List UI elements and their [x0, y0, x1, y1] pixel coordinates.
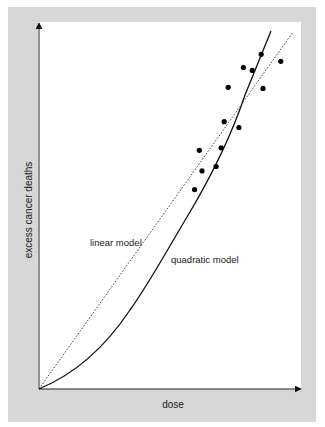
quadratic-model-label: quadratic model	[171, 254, 239, 265]
data-point	[192, 187, 197, 192]
data-point	[214, 164, 219, 169]
data-point	[236, 125, 241, 130]
y-axis-label: excess cancer deaths	[23, 162, 34, 259]
data-point	[278, 59, 283, 64]
data-point	[199, 168, 204, 173]
x-axis-label: dose	[162, 399, 184, 410]
data-point	[250, 68, 255, 73]
data-point	[219, 145, 224, 150]
data-points	[192, 52, 283, 193]
linear-model-label: linear model	[90, 237, 142, 248]
chart-svg	[0, 0, 325, 427]
data-point	[259, 52, 264, 57]
data-point	[260, 86, 265, 91]
quadratic-model-curve	[39, 31, 271, 389]
data-point	[241, 65, 246, 70]
data-point	[226, 85, 231, 90]
linear-model-line	[39, 32, 293, 389]
data-point	[197, 148, 202, 153]
data-point	[222, 119, 227, 124]
